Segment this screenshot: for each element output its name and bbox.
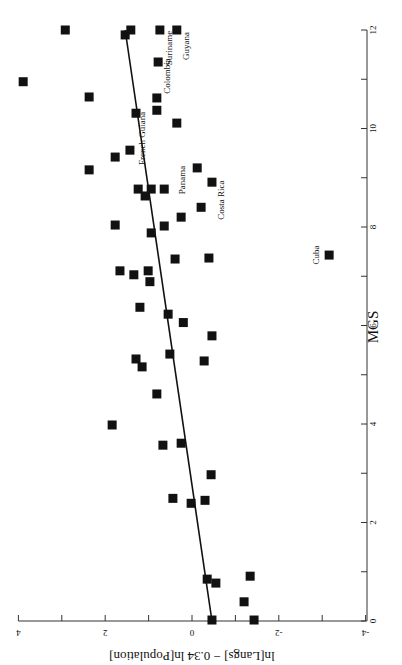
data-point: [61, 26, 70, 35]
data-point: [179, 318, 188, 327]
x-tick-label: 8: [368, 224, 378, 229]
axes: 024681012-4-2024: [16, 26, 378, 639]
data-point: [177, 213, 186, 222]
data-point: [201, 496, 210, 505]
scatter-plot: 024681012-4-2024 SurinameGuyanaColombiaF…: [0, 0, 402, 665]
data-point: [250, 616, 259, 625]
data-point: [111, 221, 120, 230]
data-point: [85, 92, 94, 101]
data-point: [193, 163, 202, 172]
point-label: Cuba: [311, 246, 321, 265]
x-axis-label: MGS: [365, 311, 381, 344]
data-point: [126, 26, 135, 35]
x-tick-label: 4: [368, 421, 378, 426]
y-tick-label: -2: [275, 628, 283, 638]
data-point: [207, 616, 216, 625]
y-tick-label: -4: [361, 628, 369, 638]
data-points: [19, 26, 334, 625]
data-point: [325, 251, 334, 260]
data-point: [240, 597, 249, 606]
y-tick-label: 4: [16, 628, 21, 638]
data-point: [115, 266, 124, 275]
data-point: [145, 277, 154, 286]
data-point: [147, 228, 156, 237]
data-point: [144, 266, 153, 275]
x-tick-label: 12: [368, 26, 378, 35]
data-point: [200, 356, 209, 365]
data-point: [164, 310, 173, 319]
data-point: [207, 331, 216, 340]
data-point: [111, 153, 120, 162]
data-point: [207, 470, 216, 479]
x-tick-label: 10: [368, 124, 378, 134]
data-point: [204, 254, 213, 263]
data-point: [129, 270, 138, 279]
data-point: [246, 572, 255, 581]
point-label: Costa Rica: [216, 181, 226, 220]
x-tick-label: 0: [368, 618, 378, 623]
point-label: Panama: [177, 166, 187, 195]
data-point: [152, 106, 161, 115]
point-label: Guyana: [181, 32, 191, 60]
data-point: [125, 146, 134, 155]
data-point: [160, 222, 169, 231]
data-point: [197, 203, 206, 212]
x-tick-label: 2: [368, 520, 378, 525]
data-point: [108, 420, 117, 429]
data-point: [171, 255, 180, 264]
data-point: [177, 439, 186, 448]
y-tick-label: 2: [103, 628, 108, 638]
point-label: French Guiana: [137, 112, 147, 165]
data-point: [132, 354, 141, 363]
data-point: [141, 191, 150, 200]
data-point: [85, 165, 94, 174]
data-point: [152, 93, 161, 102]
data-point: [211, 579, 220, 588]
data-point: [135, 303, 144, 312]
data-point: [138, 362, 147, 371]
data-point: [19, 77, 28, 86]
data-point: [203, 575, 212, 584]
data-point: [165, 350, 174, 359]
data-point: [172, 119, 181, 128]
data-point: [187, 499, 196, 508]
point-label: Colombia: [162, 58, 172, 94]
data-point: [158, 441, 167, 450]
data-point: [160, 185, 169, 194]
data-point: [168, 494, 177, 503]
data-point: [152, 389, 161, 398]
y-axis-label: ln[Langs] − 0.34 ln[Population]: [109, 649, 274, 664]
y-tick-label: 0: [189, 628, 194, 638]
